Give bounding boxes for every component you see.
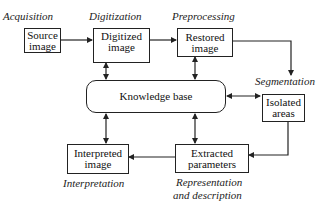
- node-restored-line1: Restored: [185, 32, 224, 43]
- node-isolated-line2: areas: [266, 108, 301, 119]
- node-restored-line2: image: [185, 43, 224, 54]
- node-digitized-line2: image: [101, 42, 142, 53]
- node-digitized-line1: Digitized: [101, 31, 142, 42]
- node-source-line1: Source: [27, 30, 58, 41]
- stage-label-acquisition: Acquisition: [3, 11, 53, 22]
- node-isolated-areas: Isolated areas: [262, 94, 305, 122]
- stage-label-representation-line2: and description: [173, 190, 242, 201]
- arrow-restored-to-segmentation: [233, 41, 291, 75]
- node-extracted-parameters: Extracted parameters: [175, 144, 249, 173]
- stage-label-preprocessing: Preprocessing: [172, 11, 235, 22]
- node-interpreted-image: Interpreted image: [67, 144, 129, 174]
- node-knowledge-label: Knowledge base: [119, 91, 192, 102]
- node-restored-image: Restored image: [177, 28, 233, 57]
- stage-label-interpretation: Interpretation: [63, 178, 124, 189]
- node-extracted-line2: parameters: [188, 159, 236, 170]
- diagram-canvas: Acquisition Digitization Preprocessing S…: [0, 0, 331, 208]
- arrow-isolated-to-extracted: [249, 121, 288, 155]
- node-extracted-line1: Extracted: [188, 148, 236, 159]
- node-digitized-image: Digitized image: [93, 28, 150, 63]
- node-source-line2: image: [27, 41, 58, 52]
- node-knowledge-base: Knowledge base: [86, 80, 226, 113]
- node-interpreted-line2: image: [74, 159, 122, 170]
- stage-label-segmentation: Segmentation: [255, 76, 315, 87]
- stage-label-representation-line1: Representation: [176, 177, 242, 188]
- node-source-image: Source image: [24, 28, 61, 53]
- stage-label-digitization: Digitization: [89, 11, 142, 22]
